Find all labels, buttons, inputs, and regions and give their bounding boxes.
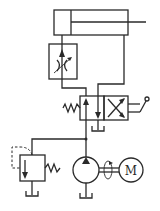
throttle-valve (49, 44, 77, 79)
hydraulic-circuit-diagram: M (0, 0, 160, 211)
pilot-line (12, 147, 32, 168)
down-arrow-icon (22, 172, 28, 179)
motor-label: M (125, 164, 137, 178)
relief-valve (12, 147, 60, 196)
relief-line (32, 139, 86, 155)
electric-motor: M (119, 158, 143, 182)
spring-icon (45, 164, 60, 172)
drive-shaft (99, 161, 119, 179)
directional-valve (63, 96, 149, 120)
pump-arrow-icon (82, 157, 90, 164)
cylinder-rod-line (98, 35, 124, 96)
hydraulic-pump (73, 157, 99, 198)
up-arrow-icon (83, 98, 89, 105)
throttle-to-valve-line (62, 79, 86, 96)
spring-icon (63, 104, 80, 112)
lever-icon (128, 97, 149, 112)
flow-arrow-icon (59, 49, 65, 57)
down-arrow-icon (95, 112, 101, 119)
hydraulic-cylinder (54, 10, 146, 35)
